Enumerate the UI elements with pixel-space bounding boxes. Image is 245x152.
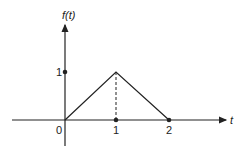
y-tick-1: 1 — [56, 66, 62, 78]
x-axis-label: t — [230, 114, 234, 126]
y-axis-label: f(t) — [62, 9, 76, 21]
point-y1 — [63, 70, 68, 75]
function-curve — [65, 72, 169, 120]
point-x2 — [167, 118, 172, 123]
x-tick-2: 2 — [166, 124, 172, 136]
x-tick-0: 0 — [56, 124, 62, 136]
x-tick-1: 1 — [113, 124, 119, 136]
triangle-function-plot: f(t) t 0 1 2 1 — [0, 0, 245, 152]
point-x1 — [114, 118, 119, 123]
